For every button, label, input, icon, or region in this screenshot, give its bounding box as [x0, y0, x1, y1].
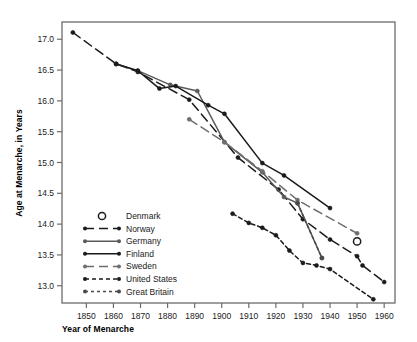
y-tick-label: 14.0	[37, 219, 54, 229]
y-tick-label: 13.0	[37, 281, 54, 291]
data-point	[222, 112, 226, 116]
data-point	[274, 233, 278, 237]
data-point	[136, 69, 140, 73]
legend-marker	[117, 252, 121, 256]
x-tick-label: 1870	[131, 311, 150, 321]
legend-label: Sweden	[126, 261, 157, 271]
data-point	[260, 161, 264, 165]
x-tick-label: 1910	[239, 311, 258, 321]
data-point	[314, 263, 318, 267]
data-point	[174, 84, 178, 88]
data-point	[287, 249, 291, 253]
data-point	[355, 254, 359, 258]
data-point	[157, 87, 161, 91]
data-point	[282, 173, 286, 177]
x-tick-label: 1860	[104, 311, 123, 321]
chart-figure: 13.013.514.014.515.015.516.016.517.0 185…	[0, 0, 417, 342]
x-tick-label: 1920	[266, 311, 285, 321]
data-point	[260, 169, 264, 173]
legend-marker	[117, 290, 121, 294]
data-point	[328, 206, 332, 210]
x-tick-label: 1940	[321, 311, 340, 321]
data-point	[231, 212, 235, 216]
y-axis-title: Age at Menarche, in Years	[14, 109, 24, 217]
data-point	[236, 156, 240, 160]
data-point	[301, 261, 305, 265]
data-point	[206, 103, 210, 107]
x-tick-label: 1960	[375, 311, 394, 321]
x-tick-label: 1950	[348, 311, 367, 321]
data-point	[222, 140, 226, 144]
y-tick-label: 16.5	[37, 65, 54, 75]
data-point	[296, 201, 300, 205]
y-tick-label: 15.5	[37, 127, 54, 137]
data-point	[382, 280, 386, 284]
data-point	[361, 263, 365, 267]
x-tick-label: 1850	[77, 311, 96, 321]
legend-marker	[117, 264, 121, 268]
data-point	[187, 117, 191, 121]
data-point	[320, 256, 324, 260]
legend-marker	[83, 239, 87, 243]
legend-label: Norway	[126, 224, 156, 234]
x-tick-label: 1880	[158, 311, 177, 321]
x-axis-title: Year of Menarche	[62, 324, 134, 334]
menarche-age-line-chart: 13.013.514.014.515.015.516.016.517.0 185…	[0, 0, 417, 342]
data-point	[371, 297, 375, 301]
data-point	[114, 62, 118, 66]
legend-marker	[83, 227, 87, 231]
legend-label: Great Britain	[126, 287, 174, 297]
y-axis-tick-labels: 13.013.514.014.515.015.516.016.517.0	[37, 34, 54, 290]
data-point	[355, 231, 359, 235]
legend-marker	[83, 264, 87, 268]
y-tick-label: 15.0	[37, 158, 54, 168]
legend-label: Finland	[126, 249, 154, 259]
legend-marker	[117, 227, 121, 231]
x-tick-label: 1930	[293, 311, 312, 321]
data-point	[71, 30, 75, 34]
legend-marker	[83, 252, 87, 256]
y-tick-label: 17.0	[37, 34, 54, 44]
legend-label: United States	[126, 274, 177, 284]
y-tick-label: 14.5	[37, 188, 54, 198]
data-point	[247, 221, 251, 225]
legend-marker	[117, 277, 121, 281]
legend-marker	[117, 239, 121, 243]
x-tick-label: 1890	[185, 311, 204, 321]
y-tick-label: 13.5	[37, 250, 54, 260]
legend-marker	[83, 290, 87, 294]
legend-marker	[83, 277, 87, 281]
legend-label: Denmark	[126, 211, 161, 221]
y-tick-label: 16.0	[37, 96, 54, 106]
data-point	[282, 195, 286, 199]
x-tick-label: 1900	[212, 311, 231, 321]
data-point	[187, 98, 191, 102]
data-point	[260, 226, 264, 230]
data-point	[195, 89, 199, 93]
data-point	[328, 267, 332, 271]
legend-label: Germany	[126, 236, 162, 246]
data-point	[328, 238, 332, 242]
